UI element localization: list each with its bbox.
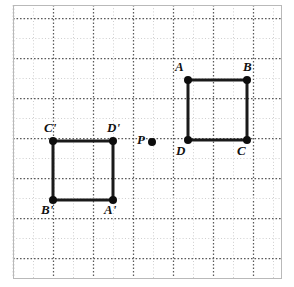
vertex-label-d: D <box>176 144 185 157</box>
vertex-label-d-prime: D' <box>107 121 120 134</box>
vertex-label-b-prime: B' <box>41 203 53 216</box>
vertex-dot-b <box>243 76 251 84</box>
vertex-dot-a <box>184 76 192 84</box>
point-label-p: P <box>137 133 145 146</box>
figure-background <box>0 0 294 287</box>
vertex-label-b: B <box>243 60 252 73</box>
vertex-label-a-prime: A' <box>104 203 116 216</box>
vertex-label-a: A <box>175 60 184 73</box>
geometry-figure: ABCDC'D'A'B'P <box>0 0 294 287</box>
vertex-dot-d <box>184 136 192 144</box>
vertex-label-c-prime: C' <box>44 121 56 134</box>
vertex-label-c: C <box>237 144 246 157</box>
figure-canvas <box>0 0 294 287</box>
center-of-rotation-dot <box>148 138 156 146</box>
vertex-dot-c-prime <box>49 137 57 145</box>
vertex-dot-d-prime <box>109 137 117 145</box>
